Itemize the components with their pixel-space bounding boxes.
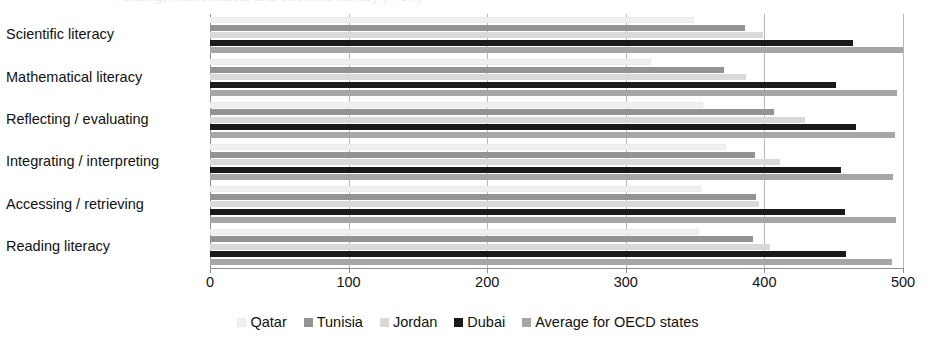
- bar: [210, 32, 763, 38]
- bar: [210, 117, 805, 123]
- legend-label: Tunisia: [317, 314, 363, 330]
- bar: [210, 17, 694, 23]
- x-axis-tick-label: 100: [336, 274, 360, 290]
- bar: [210, 152, 755, 158]
- legend-label: Average for OECD states: [535, 314, 698, 330]
- bar-group: [210, 14, 903, 56]
- category-axis-labels: Scientific literacyMathematical literacy…: [0, 14, 206, 268]
- bar: [210, 40, 853, 46]
- legend-swatch-icon: [522, 318, 531, 327]
- category-label: Reading literacy: [6, 238, 206, 254]
- bar: [210, 209, 845, 215]
- legend-swatch-icon: [304, 318, 313, 327]
- legend-swatch-icon: [454, 318, 463, 327]
- x-axis-tick: [903, 268, 904, 273]
- bar-group: [210, 99, 903, 141]
- x-axis-tick-labels: 0100200300400500: [0, 274, 936, 294]
- x-axis-tick-label: 400: [752, 274, 776, 290]
- x-axis-tick-label: 300: [614, 274, 638, 290]
- bar: [210, 124, 856, 130]
- bar: [210, 109, 774, 115]
- legend-item[interactable]: Dubai: [454, 314, 505, 330]
- x-axis-tick: [764, 268, 765, 273]
- bar: [210, 132, 895, 138]
- legend-item[interactable]: Jordan: [380, 314, 437, 330]
- bar: [210, 217, 896, 223]
- bar: [210, 47, 903, 53]
- x-axis-tick-label: 0: [206, 274, 214, 290]
- bar: [210, 174, 893, 180]
- bar: [210, 59, 651, 65]
- bar: [210, 102, 703, 108]
- x-axis-tick: [487, 268, 488, 273]
- legend-item[interactable]: Tunisia: [304, 314, 363, 330]
- bar: [210, 90, 897, 96]
- bar: [210, 74, 746, 80]
- bar: [210, 259, 892, 265]
- legend-item[interactable]: Average for OECD states: [522, 314, 698, 330]
- category-label: Scientific literacy: [6, 26, 206, 42]
- bar-group: [210, 226, 903, 268]
- bar: [210, 144, 726, 150]
- bar: [210, 244, 770, 250]
- bar-group: [210, 183, 903, 225]
- category-label: Integrating / interpreting: [6, 153, 206, 169]
- x-axis-tick: [626, 268, 627, 273]
- x-axis-line: [210, 268, 904, 269]
- bar: [210, 67, 724, 73]
- bar: [210, 186, 701, 192]
- bar: [210, 25, 745, 31]
- chart-legend: QatarTunisiaJordanDubaiAverage for OECD …: [0, 310, 936, 334]
- bar-group: [210, 141, 903, 183]
- bar: [210, 167, 841, 173]
- x-axis-tick: [349, 268, 350, 273]
- plot-area: [210, 14, 903, 268]
- bar: [210, 159, 780, 165]
- category-label: Reflecting / evaluating: [6, 111, 206, 127]
- category-label: Accessing / retrieving: [6, 196, 206, 212]
- bar: [210, 82, 836, 88]
- bar: [210, 194, 756, 200]
- bar: [210, 251, 846, 257]
- bar: [210, 236, 753, 242]
- bar: [210, 201, 759, 207]
- legend-label: Qatar: [250, 314, 286, 330]
- gridline: [903, 14, 904, 268]
- x-axis-tick-label: 200: [475, 274, 499, 290]
- legend-item[interactable]: Qatar: [237, 314, 286, 330]
- grouped-bar-chart: Scientific literacyMathematical literacy…: [0, 0, 936, 341]
- x-axis-tick: [210, 268, 211, 273]
- legend-swatch-icon: [380, 318, 389, 327]
- bar: [210, 229, 699, 235]
- legend-swatch-icon: [237, 318, 246, 327]
- legend-label: Dubai: [467, 314, 505, 330]
- legend-label: Jordan: [393, 314, 437, 330]
- x-axis-tick-label: 500: [891, 274, 915, 290]
- category-label: Mathematical literacy: [6, 69, 206, 85]
- bar-group: [210, 56, 903, 98]
